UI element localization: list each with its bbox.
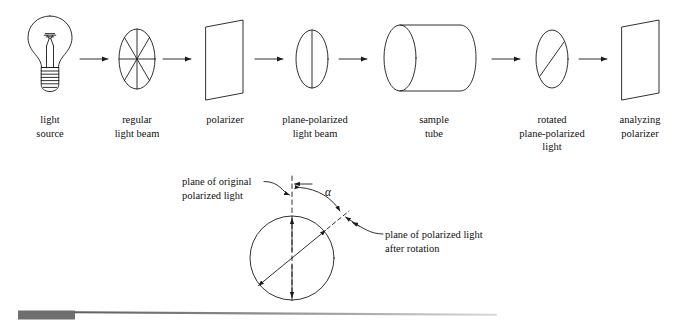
- rotated-plane-tick-arrow: [346, 217, 360, 226]
- stage-caption-regular-light-beam: regular light beam: [95, 113, 179, 140]
- diagram-canvas: light source regular light beam polarize…: [0, 0, 678, 323]
- polarizer-plate-icon: [206, 20, 243, 100]
- stage-caption-sample-tube: sample tube: [392, 113, 476, 140]
- decorative-rule-icon: [18, 311, 496, 320]
- polarizer-plate-icon: [622, 20, 659, 100]
- original-plane-label: plane of original polarized light: [182, 175, 270, 202]
- stage-caption-analyzing-polarizer: analyzing polarizer: [605, 113, 675, 140]
- cylinder-tube-icon: [384, 25, 476, 91]
- stage-caption-plane-polarized-beam: plane-polarized light beam: [265, 113, 365, 140]
- stage-caption-rotated-polarized-light: rotated plane-polarized light: [500, 113, 604, 154]
- angle-arc-icon: [300, 188, 340, 212]
- rotated-polarized-ellipse-icon: [536, 30, 568, 88]
- light-bulb-icon: [28, 16, 72, 92]
- rotated-plane-extension-icon: [327, 211, 349, 229]
- diagram-graphics: [0, 0, 678, 323]
- stage-caption-polarizer: polarizer: [183, 113, 267, 127]
- stage-caption-light-source: light source: [8, 113, 92, 140]
- rotated-plane-label: plane of polarized light after rotation: [385, 228, 535, 255]
- plane-polarized-ellipse-icon: [296, 30, 328, 88]
- unpolarized-beam-ellipse-icon: [119, 29, 155, 89]
- angle-alpha-label: α: [325, 186, 331, 198]
